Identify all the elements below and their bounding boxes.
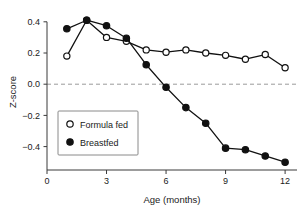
data-point	[222, 52, 228, 58]
y-tick-label: 0.2	[27, 48, 40, 58]
x-tick-label: 3	[104, 176, 109, 186]
legend: Formula fed Breastfed	[58, 111, 138, 155]
data-point	[163, 84, 169, 90]
x-tick-label: 6	[164, 176, 169, 186]
x-tick-label: 9	[223, 176, 228, 186]
data-point	[222, 145, 228, 151]
data-point	[123, 35, 129, 41]
data-point	[282, 65, 288, 71]
data-point	[183, 104, 189, 110]
legend-label-formula-fed: Formula fed	[80, 120, 128, 130]
data-point	[242, 56, 248, 62]
x-axis-title: Age (months)	[143, 194, 200, 205]
data-point	[64, 26, 70, 32]
data-point	[242, 147, 248, 153]
data-point	[203, 50, 209, 56]
legend-label-breastfed: Breastfed	[80, 138, 119, 148]
data-point	[163, 49, 169, 55]
data-point	[183, 47, 189, 53]
data-point	[262, 51, 268, 57]
y-tick-label: −0.4	[22, 142, 40, 152]
data-point	[203, 120, 209, 126]
y-tick-label: 0.0	[27, 79, 40, 89]
y-axis-title: Z-score	[7, 76, 18, 108]
x-tick-label: 12	[280, 176, 290, 186]
y-tick-label: −0.2	[22, 111, 40, 121]
chart-container: 0.40.20.0−0.2−0.4 036912 Z-score Age (mo…	[0, 0, 302, 211]
data-point	[282, 159, 288, 165]
data-point	[103, 34, 109, 40]
data-point	[143, 61, 149, 67]
line-chart: 0.40.20.0−0.2−0.4 036912 Z-score Age (mo…	[0, 0, 302, 211]
data-point	[83, 17, 89, 23]
x-tick-label: 0	[44, 176, 49, 186]
x-axis-title-text: Age (months)	[143, 194, 200, 205]
legend-marker-formula-fed	[67, 121, 73, 127]
data-point	[143, 47, 149, 53]
legend-box	[58, 111, 138, 155]
data-point	[262, 153, 268, 159]
legend-marker-breastfed	[67, 139, 73, 145]
y-tick-label: 0.4	[27, 17, 40, 27]
data-point	[64, 53, 70, 59]
y-axis-title-text: Z-score	[7, 76, 18, 108]
data-point	[103, 23, 109, 29]
